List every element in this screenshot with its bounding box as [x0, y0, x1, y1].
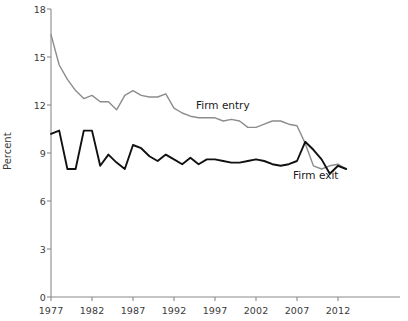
x-tick-label: 1997 [203, 305, 228, 316]
y-axis-ticks [47, 9, 51, 297]
y-tick-label: 3 [20, 244, 46, 255]
series-annotation-firm-exit: Firm exit [293, 169, 338, 181]
y-tick-label: 18 [20, 4, 46, 15]
x-tick-label: 1977 [39, 305, 64, 316]
x-tick-label: 1982 [80, 305, 105, 316]
x-tick-label: 1992 [162, 305, 187, 316]
chart-container: 0369121518 19771982198719921997200220072… [0, 0, 408, 321]
axis-lines [51, 9, 400, 297]
x-tick-label: 2012 [326, 305, 351, 316]
y-axis-title: Percent [2, 132, 13, 170]
x-tick-label: 2002 [244, 305, 269, 316]
x-tick-label: 1987 [121, 305, 146, 316]
y-tick-label: 6 [20, 196, 46, 207]
y-tick-label: 9 [20, 148, 46, 159]
y-tick-label: 15 [20, 52, 46, 63]
chart-plot-area [0, 0, 408, 321]
y-tick-label: 0 [20, 292, 46, 303]
y-tick-label: 12 [20, 100, 46, 111]
series-annotation-firm-entry: Firm entry [196, 99, 250, 111]
x-axis-ticks [51, 297, 338, 301]
x-tick-label: 2007 [285, 305, 310, 316]
